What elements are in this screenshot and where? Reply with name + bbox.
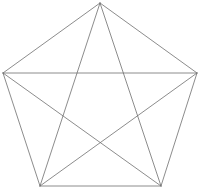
pentagram-figure bbox=[0, 0, 201, 192]
figure-background bbox=[0, 0, 201, 192]
